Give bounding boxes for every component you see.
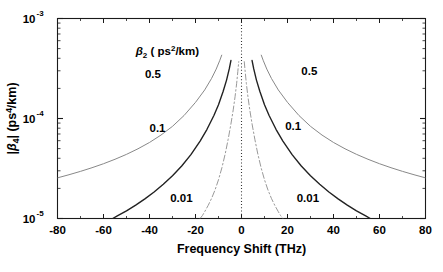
x-tick-label: 40	[327, 224, 340, 236]
svg-text:10: 10	[23, 213, 36, 225]
svg-text:-4: -4	[37, 109, 45, 118]
x-tick-labels: -80-60-40-20020406080	[49, 224, 432, 236]
figure-container: -80-60-40-20020406080 10-310-410-5 Frequ…	[0, 0, 443, 272]
curve-label-001-left: 0.01	[170, 192, 193, 204]
x-tick-label: 60	[373, 224, 386, 236]
x-tick-label: 20	[281, 224, 294, 236]
x-axis-label-text: Frequency Shift (THz)	[177, 242, 306, 256]
x-tick-label: -60	[95, 224, 112, 236]
svg-text:-3: -3	[37, 9, 45, 18]
svg-text:10: 10	[23, 113, 36, 125]
y-axis-label: |β4| (ps4/km)	[4, 82, 22, 154]
x-tick-label: 80	[419, 224, 432, 236]
curve-label-05-right: 0.5	[301, 65, 318, 77]
x-tick-label: -80	[49, 224, 66, 236]
curve-label-01-left: 0.1	[150, 122, 167, 134]
beta4-vs-frequency-shift-chart: -80-60-40-20020406080 10-310-410-5 Frequ…	[0, 0, 443, 272]
curve-label-05-left: 0.5	[145, 68, 162, 80]
y-axis-label-text: |β4| (ps4/km)	[4, 82, 22, 154]
x-tick-label: -20	[187, 224, 204, 236]
svg-text:|β4| (ps4/km): |β4| (ps4/km)	[4, 82, 22, 154]
curve-label-001-right: 0.01	[297, 192, 320, 204]
x-tick-label: 0	[238, 224, 244, 236]
x-tick-label: -40	[141, 224, 158, 236]
svg-text:10: 10	[23, 13, 36, 25]
svg-text:-5: -5	[37, 209, 45, 218]
x-axis-label: Frequency Shift (THz)	[177, 242, 306, 256]
curve-label-01-right: 0.1	[285, 120, 302, 132]
